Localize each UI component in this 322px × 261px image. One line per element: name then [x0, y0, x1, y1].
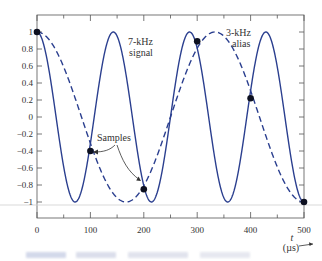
y-tick-label: 0.6	[22, 61, 34, 71]
sample-dot	[87, 148, 94, 155]
y-tick-label: −0.6	[17, 163, 34, 173]
y-tick-label: 0.8	[22, 44, 34, 54]
aliasing-chart: 10.80.60.40.20−0.2−0.4−0.6−0.8−1 0 100 2…	[0, 0, 322, 261]
figure-caption	[10, 251, 310, 260]
x-tick-200: 200	[137, 225, 151, 235]
sample-dot	[34, 29, 41, 36]
alias-label-line1: 3-kHz	[226, 27, 252, 38]
y-axis-ticks-right	[299, 32, 304, 202]
y-tick-label: −0.8	[17, 180, 34, 190]
y-tick-label: 0.4	[22, 78, 34, 88]
x-tick-300: 300	[190, 225, 204, 235]
x-axis-ticks-top	[37, 15, 304, 21]
sample-dot	[141, 186, 148, 193]
alias-label-line2: alias	[232, 38, 250, 49]
y-tick-label: 0	[29, 112, 34, 122]
signal-label-line2: signal	[129, 47, 153, 58]
y-tick-label: 1	[29, 27, 34, 37]
y-tick-label: −0.4	[17, 146, 34, 156]
alias-3khz-curve	[37, 32, 304, 202]
y-tick-label: −0.2	[17, 129, 33, 139]
signal-label-line1: 7-kHz	[128, 36, 154, 47]
samples-arrows	[94, 145, 140, 180]
figure-caption-text	[10, 251, 18, 260]
samples-label: Samples	[97, 132, 131, 143]
y-tick-label: 0.2	[22, 95, 33, 105]
x-axis-ticks	[37, 212, 304, 218]
y-axis-labels: 10.80.60.40.20−0.2−0.4−0.6−0.8−1	[17, 27, 34, 207]
x-tick-500: 500	[297, 225, 311, 235]
sample-dot	[247, 95, 254, 102]
x-axis-arrow-icon	[299, 242, 313, 246]
x-tick-100: 100	[84, 225, 98, 235]
x-tick-400: 400	[244, 225, 258, 235]
x-tick-0: 0	[35, 225, 40, 235]
sample-dot	[194, 38, 201, 45]
y-axis-ticks	[37, 32, 42, 202]
sample-dot	[301, 199, 308, 206]
y-tick-label: −1	[23, 197, 33, 207]
arrowhead-icons	[93, 150, 141, 182]
